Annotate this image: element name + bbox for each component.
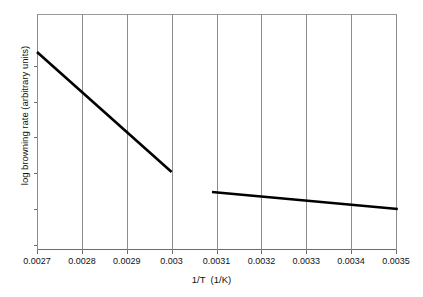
x-tick-7	[351, 250, 352, 254]
x-tick-3	[172, 250, 173, 254]
x-tick-label-2: 0.0029	[102, 256, 152, 267]
x-tick-1	[82, 250, 83, 254]
x-tick-2	[127, 250, 128, 254]
arrhenius-browning-rate-chart: 0.0027 0.0028 0.0029 0.003 0.0031 0.0032…	[0, 0, 423, 297]
x-tick-label-5: 0.0032	[236, 256, 286, 267]
series-line-low-temperature-branch	[212, 192, 398, 209]
x-tick-label-0: 0.0027	[12, 256, 62, 267]
x-tick-label-8: 0.0035	[371, 256, 421, 267]
x-tick-label-3: 0.003	[147, 256, 197, 267]
y-axis-title: log browning rate (arbitrary units)	[19, 0, 30, 234]
series-line-high-temperature-branch	[37, 52, 172, 172]
x-tick-6	[306, 250, 307, 254]
gridline-x-8	[396, 14, 397, 250]
x-tick-4	[217, 250, 218, 254]
x-tick-8	[396, 250, 397, 254]
plot-area	[37, 14, 396, 250]
x-tick-5	[261, 250, 262, 254]
x-tick-label-6: 0.0033	[281, 256, 331, 267]
x-tick-label-4: 0.0031	[192, 256, 242, 267]
data-series-layer	[37, 14, 396, 250]
x-tick-0	[37, 250, 38, 254]
x-axis-title: 1/T (1/K)	[0, 274, 423, 285]
x-tick-label-7: 0.0034	[326, 256, 376, 267]
x-tick-label-1: 0.0028	[57, 256, 107, 267]
